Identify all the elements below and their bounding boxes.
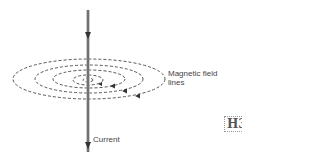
arrow-icon	[135, 94, 140, 99]
field-lines-label-line2: lines	[168, 78, 217, 87]
field-lines-label: Magnetic field lines	[168, 69, 217, 87]
down-arrow-icon	[85, 142, 91, 149]
down-arrow-icon	[85, 32, 91, 39]
field-lines-label-line1: Magnetic field	[168, 69, 217, 78]
section-badge: H3	[224, 116, 242, 132]
arrow-icon	[98, 82, 102, 86]
arrow-icon	[110, 84, 115, 89]
current-label: Current	[93, 135, 120, 144]
